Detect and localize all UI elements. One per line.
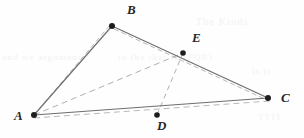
vertex-dot-a xyxy=(31,112,37,118)
vertex-dot-e xyxy=(180,50,186,56)
vertex-dot-c xyxy=(265,95,271,101)
vertex-label-d: D xyxy=(157,119,166,132)
edge-BC xyxy=(112,26,268,98)
vertex-label-e: E xyxy=(192,31,201,44)
vertex-dot-b xyxy=(109,23,115,29)
vertex-label-c: C xyxy=(281,91,290,104)
edge-AB xyxy=(34,26,112,115)
dashed-edge-AC xyxy=(34,101,270,118)
dashed-edges-group xyxy=(34,25,270,118)
geometry-figure: The Kindsand we argumentsto the that to … xyxy=(0,0,304,138)
vertex-label-b: B xyxy=(127,3,136,16)
vertex-label-a: A xyxy=(14,109,23,122)
vertex-dot-d xyxy=(154,112,160,118)
figure-canvas xyxy=(0,0,304,138)
edge-AC xyxy=(34,98,268,115)
solid-edges-group xyxy=(34,26,268,115)
